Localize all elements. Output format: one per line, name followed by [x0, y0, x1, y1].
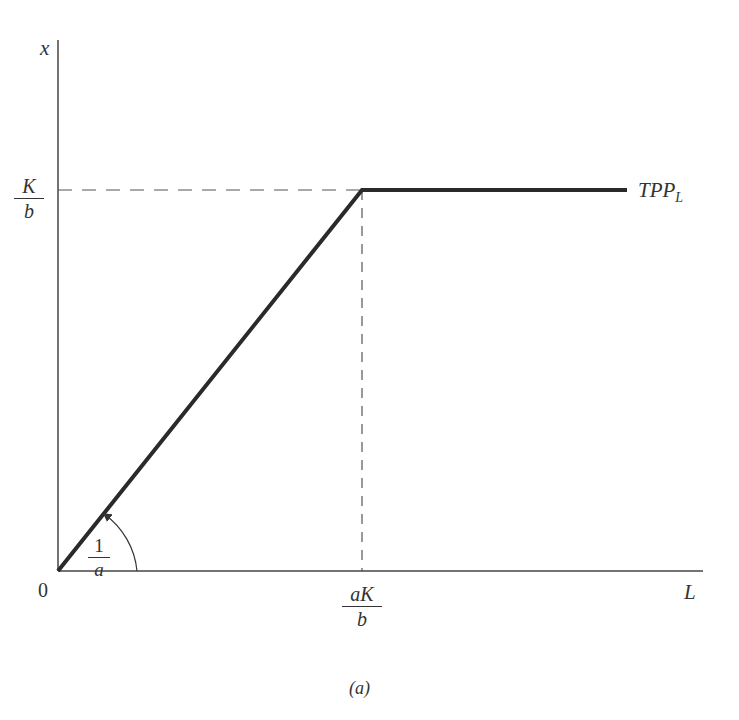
x-axis-label: L [684, 582, 696, 603]
y-axis-label: x [40, 38, 49, 59]
tpp-label-text: TPP [638, 178, 675, 202]
tpp-label-sub: L [675, 190, 683, 205]
figure-caption: (a) [349, 679, 370, 697]
tpp-label: TPPL [638, 180, 683, 205]
tpp-curve [58, 190, 627, 571]
y-tick-k-over-b: K b [14, 176, 44, 221]
x-tick-ak-over-b: aK b [342, 584, 382, 629]
slope-label-1-over-a: 1 a [88, 536, 110, 579]
origin-label: 0 [38, 580, 48, 600]
